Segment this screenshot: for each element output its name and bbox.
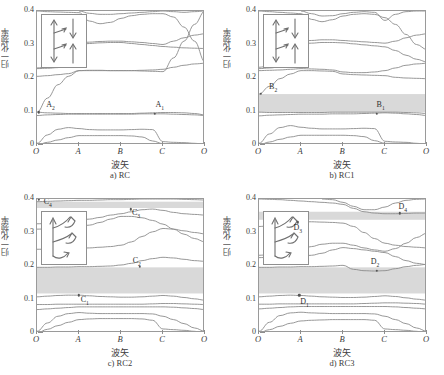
x-tick-mark [204,330,205,334]
mode-label-A1: A1 [155,100,164,111]
y-tick-label: 0.4 [234,5,256,14]
x-tick-mark [78,330,79,334]
x-tick-mark [426,330,427,334]
y-axis-ticks: 00.10.20.30.4 [230,188,256,340]
y-tick-label: 0 [234,327,256,336]
x-tick-label: B [117,146,122,156]
y-tick-label: 0.1 [234,294,256,303]
x-tick-mark [162,142,163,146]
y-tick-label: 0.3 [234,227,256,236]
x-tick-mark [78,142,79,146]
y-tick-label: 0.2 [234,72,256,81]
x-tick-mark [300,330,301,334]
x-tick-mark [120,330,121,334]
x-tick-label: A [75,334,80,344]
panel-caption: d) RC3 [258,358,426,368]
x-tick-label: A [297,334,302,344]
y-tick-label: 0.3 [12,227,34,236]
y-tick-label: 0.4 [12,5,34,14]
x-tick-mark [36,142,37,146]
panel-rc3: 归一化频率00.10.20.30.4D4D3D2D1OABCO波矢d) RC3 [222,188,444,375]
y-tick-mark [260,332,265,333]
x-tick-label: B [339,334,344,344]
x-tick-label: O [255,146,261,156]
x-tick-mark [300,142,301,146]
panel-rc: 归一化频率00.10.20.30.4A2A1OABCO波矢a) RC [0,0,222,188]
x-tick-label: B [339,146,344,156]
mode-label-D1: D1 [300,297,309,308]
x-tick-label: O [33,146,39,156]
x-tick-label: C [159,334,165,344]
plot-area-rc3: D4D3D2D1 [258,198,426,332]
y-tick-label: 0.2 [12,260,34,269]
y-tick-label: 0 [234,139,256,148]
x-tick-label: C [159,146,165,156]
panel-rc2: 归一化频率00.10.20.30.4C4C3C2C1OABCO波矢c) RC2 [0,188,222,375]
mode-label-C2: C2 [133,256,141,267]
x-tick-mark [384,142,385,146]
x-tick-mark [204,142,205,146]
plot-area-rc1: B2B1 [258,10,426,144]
y-tick-label: 0.2 [12,72,34,81]
mode-label-A2: A2 [46,100,55,111]
x-tick-label: C [381,146,387,156]
y-tick-mark [38,332,43,333]
x-tick-mark [258,142,259,146]
y-tick-label: 0.4 [234,193,256,202]
mode-label-D2: D2 [371,257,380,268]
y-tick-label: 0.2 [234,260,256,269]
panel-caption: b) RC1 [258,170,426,180]
y-tick-label: 0.1 [234,106,256,115]
x-tick-label: O [423,334,429,344]
x-tick-label: B [117,334,122,344]
mode-label-B2: B2 [269,82,277,93]
unit-cell-inset [263,211,309,265]
y-tick-mark [38,144,43,145]
unit-cell-inset [263,14,309,68]
y-tick-mark [260,144,265,145]
y-tick-label: 0.3 [234,39,256,48]
x-tick-label: O [201,146,207,156]
x-tick-label: O [255,334,261,344]
panel-caption: c) RC2 [36,358,204,368]
x-tick-label: A [75,146,80,156]
x-tick-mark [426,142,427,146]
x-tick-mark [258,330,259,334]
mode-label-D3: D3 [293,223,302,234]
y-tick-label: 0.3 [12,39,34,48]
x-tick-label: A [297,146,302,156]
figure-grid: 归一化频率00.10.20.30.4A2A1OABCO波矢a) RC 归一化频率… [0,0,444,375]
y-tick-label: 0 [12,139,34,148]
x-tick-mark [36,330,37,334]
x-tick-label: C [381,334,387,344]
y-tick-label: 0.1 [12,106,34,115]
unit-cell-inset [41,14,87,68]
y-tick-label: 0.4 [12,193,34,202]
mode-label-C4: C4 [44,198,52,207]
x-tick-label: O [33,334,39,344]
y-axis-ticks: 00.10.20.30.4 [8,188,34,340]
mode-label-C1: C1 [81,295,89,306]
mode-label-B1: B1 [377,100,385,111]
plot-area-rc: A2A1 [36,10,204,144]
y-axis-ticks: 00.10.20.30.4 [230,0,256,152]
x-tick-mark [342,330,343,334]
mode-label-C3: C3 [132,208,140,219]
x-tick-mark [120,142,121,146]
x-tick-mark [342,142,343,146]
panel-rc1: 归一化频率00.10.20.30.4B2B1OABCO波矢b) RC1 [222,0,444,188]
y-axis-ticks: 00.10.20.30.4 [8,0,34,152]
panel-caption: a) RC [36,170,204,180]
x-tick-mark [162,330,163,334]
x-tick-label: O [423,146,429,156]
x-tick-mark [384,330,385,334]
plot-area-rc2: C4C3C2C1 [36,198,204,332]
unit-cell-inset [41,211,87,265]
x-tick-label: O [201,334,207,344]
mode-label-D4: D4 [398,202,407,213]
y-tick-label: 0.1 [12,294,34,303]
y-tick-label: 0 [12,327,34,336]
